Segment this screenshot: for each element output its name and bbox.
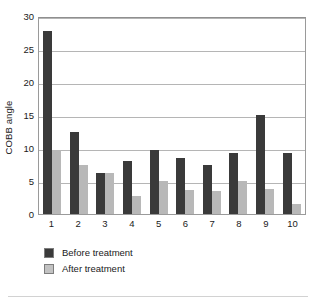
bar-group [92, 18, 119, 214]
bar-before-treatment [96, 173, 105, 214]
bar-group [145, 18, 172, 214]
legend-label: After treatment [62, 263, 125, 274]
chart-figure: COBB angle 051015202530 12345678910 Befo… [0, 0, 316, 303]
legend-item: After treatment [44, 263, 133, 274]
bar-before-treatment [150, 150, 159, 214]
bar-after-treatment [292, 204, 301, 214]
bar-before-treatment [283, 153, 292, 214]
y-axis-tick-label: 15 [23, 111, 34, 121]
bar-after-treatment [265, 189, 274, 214]
bar-group [225, 18, 252, 214]
x-axis-tick-label: 8 [226, 217, 253, 233]
legend-swatch-before-treatment [44, 248, 54, 258]
bar-before-treatment [123, 161, 132, 214]
x-axis-tick-label: 7 [199, 217, 226, 233]
y-axis-tick-label: 10 [23, 144, 34, 154]
bar-group [172, 18, 199, 214]
legend-swatch-after-treatment [44, 264, 54, 274]
x-axis-tick-label: 9 [252, 217, 279, 233]
bar-before-treatment [176, 158, 185, 214]
y-axis-title-text: COBB angle [4, 100, 15, 154]
bar-before-treatment [43, 31, 52, 214]
bar-group [252, 18, 279, 214]
x-axis-tick-label: 6 [172, 217, 199, 233]
bar-before-treatment [256, 115, 265, 214]
x-axis-tick-label: 2 [65, 217, 92, 233]
bar-after-treatment [105, 173, 114, 214]
bar-group [66, 18, 93, 214]
x-axis-tick-labels: 12345678910 [38, 217, 306, 233]
legend-label: Before treatment [62, 247, 133, 258]
x-axis-tick-label: 10 [279, 217, 306, 233]
y-axis-tick-labels: 051015202530 [16, 0, 36, 303]
plot-area [38, 17, 306, 215]
x-axis-tick-label: 4 [118, 217, 145, 233]
legend-item: Before treatment [44, 247, 133, 258]
bar-after-treatment [79, 165, 88, 214]
bar-after-treatment [132, 196, 141, 214]
y-axis-tick-label: 25 [23, 45, 34, 55]
y-axis-tick-label: 5 [29, 177, 34, 187]
chart-legend: Before treatmentAfter treatment [44, 247, 133, 274]
bar-groups [39, 18, 305, 214]
x-axis-tick-label: 1 [38, 217, 65, 233]
bar-after-treatment [52, 150, 61, 214]
bar-group [119, 18, 146, 214]
y-axis-tick-label: 0 [29, 210, 34, 220]
bar-after-treatment [212, 191, 221, 214]
x-axis-tick-label: 3 [92, 217, 119, 233]
footer-divider [8, 296, 308, 297]
bar-after-treatment [185, 190, 194, 214]
bar-after-treatment [159, 181, 168, 214]
y-axis-tick-label: 20 [23, 78, 34, 88]
y-axis-title: COBB angle [2, 62, 16, 192]
x-axis-tick-label: 5 [145, 217, 172, 233]
bar-after-treatment [238, 181, 247, 214]
bar-group [278, 18, 305, 214]
bar-before-treatment [70, 132, 79, 215]
bar-before-treatment [203, 165, 212, 215]
bar-group [39, 18, 66, 214]
bar-group [199, 18, 226, 214]
bar-before-treatment [229, 153, 238, 214]
y-axis-tick-label: 30 [23, 12, 34, 22]
